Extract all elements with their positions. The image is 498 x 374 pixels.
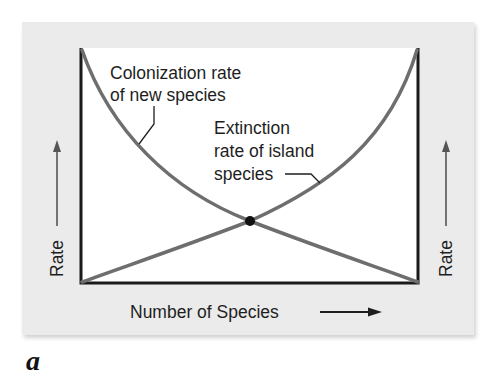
extinction-label-line1: Extinction	[214, 118, 290, 138]
colonization-label-line1: Colonization rate	[110, 63, 241, 83]
right-arrow-icon	[368, 308, 382, 317]
equilibrium-point	[245, 216, 255, 226]
x-axis-label: Number of Species	[130, 302, 279, 322]
extinction-label-line3: species	[214, 164, 274, 184]
extinction-label-line2: rate of island	[214, 141, 314, 161]
colonization-label-line2: of new species	[110, 85, 226, 105]
up-arrow-icon	[53, 140, 61, 152]
left-rate-label: Rate	[47, 240, 67, 277]
up-arrow-icon	[442, 140, 450, 152]
right-rate-label: Rate	[436, 240, 456, 277]
panel-label: a	[26, 345, 40, 374]
